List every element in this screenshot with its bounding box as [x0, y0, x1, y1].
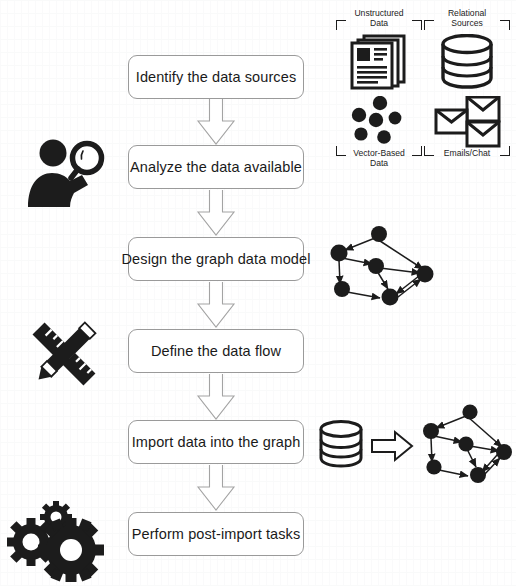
person-with-magnifying-glass-icon	[18, 135, 110, 215]
flow-step-design[interactable]: Design the graph data model	[128, 237, 304, 281]
flow-step-label: Import data into the graph	[132, 434, 301, 450]
flow-step-label: Define the data flow	[151, 343, 281, 359]
stacked-documents-icon	[350, 34, 408, 90]
flow-step-define[interactable]: Define the data flow	[128, 329, 304, 373]
flow-step-label: Analyze the data available	[130, 159, 302, 175]
data-source-label-line-1: Vector-Based	[344, 148, 414, 158]
dot-cluster-icon	[350, 96, 410, 148]
data-source-label-line-2: Sources	[432, 18, 502, 28]
envelopes-icon	[434, 96, 502, 148]
flowchart-diagram: Identify the data sources Analyze the da…	[0, 0, 516, 586]
data-source-label-line-1: Unstructured	[344, 8, 414, 18]
flow-arrow-1-icon	[195, 99, 237, 145]
database-to-graph-arrow-icon	[316, 404, 514, 496]
data-source-relational[interactable]: Relational Sources	[424, 6, 510, 94]
data-source-emails[interactable]: Emails/Chat	[424, 96, 510, 178]
flow-arrow-3-icon	[195, 282, 237, 328]
flow-step-identify[interactable]: Identify the data sources	[128, 55, 304, 99]
data-source-vector[interactable]: Vector-Based Data	[336, 96, 422, 178]
data-source-label-line-1: Emails/Chat	[432, 148, 502, 158]
flow-arrow-2-icon	[195, 190, 237, 236]
data-source-label-line-2: Data	[344, 158, 414, 168]
flow-step-label: Perform post-import tasks	[132, 526, 301, 542]
data-source-unstructured[interactable]: Unstructured Data	[336, 6, 422, 94]
flow-step-analyze[interactable]: Analyze the data available	[128, 145, 304, 189]
flow-step-import[interactable]: Import data into the graph	[128, 420, 304, 464]
data-source-label-line-2: Data	[344, 18, 414, 28]
database-cylinder-icon	[439, 34, 495, 90]
data-source-label-line-1: Relational	[432, 8, 502, 18]
flow-arrow-4-icon	[195, 374, 237, 420]
flow-step-label: Design the graph data model	[122, 251, 311, 267]
directed-graph-icon	[322, 226, 450, 314]
gears-icon	[4, 500, 108, 582]
ruler-and-pencil-icon	[20, 314, 108, 394]
flow-step-perform[interactable]: Perform post-import tasks	[128, 512, 304, 556]
flow-step-label: Identify the data sources	[136, 69, 297, 85]
flow-arrow-5-icon	[195, 465, 237, 511]
